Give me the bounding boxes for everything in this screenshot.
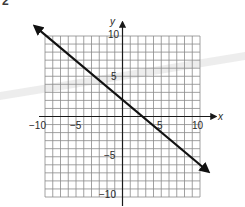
plotted-line <box>35 27 208 172</box>
x-tick-10: 10 <box>192 121 203 131</box>
data-line <box>35 27 208 172</box>
figure: 2 y x 10 5 −5 −10 −10 −5 5 10 <box>0 0 245 207</box>
x-tick-5: 5 <box>157 121 163 131</box>
axes <box>39 22 216 206</box>
y-tick-neg10: −10 <box>99 190 116 200</box>
y-tick-10: 10 <box>108 30 119 40</box>
y-tick-5: 5 <box>111 72 117 82</box>
y-axis-label: y <box>110 17 115 27</box>
x-tick-neg5: −5 <box>70 121 81 131</box>
coordinate-plane <box>0 0 245 207</box>
x-tick-neg10: −10 <box>29 121 46 131</box>
y-tick-neg5: −5 <box>104 151 115 161</box>
x-axis-label: x <box>218 112 223 122</box>
